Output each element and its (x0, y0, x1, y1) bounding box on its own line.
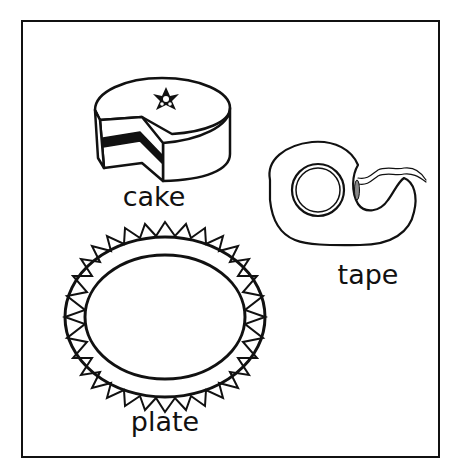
tape-label: tape (338, 261, 399, 288)
tape-dispenser-icon (269, 142, 426, 245)
plate-icon (65, 222, 265, 412)
cake-icon (95, 78, 230, 181)
cake-label: cake (123, 183, 186, 210)
worksheet-canvas: cake tape plate (0, 0, 454, 466)
plate-label: plate (131, 408, 199, 435)
illustrations (0, 0, 454, 466)
